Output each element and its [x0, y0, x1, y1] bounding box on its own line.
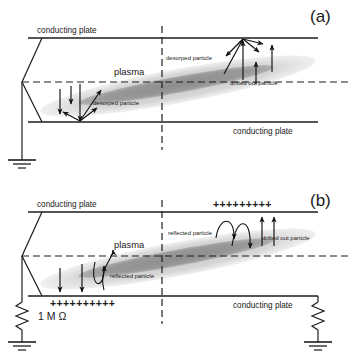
resistor-left-b	[16, 302, 28, 342]
annotation-reflected-bottom-b: reflected particle	[110, 273, 155, 279]
top-plate-label-b: conducting plate	[37, 200, 97, 209]
annotation-reflected-top-b: reflected particle	[168, 230, 213, 236]
ground-symbol-a	[8, 160, 36, 168]
plasma-label-b: plasma	[114, 239, 145, 250]
bottom-plate-label-b: conducting plate	[233, 301, 293, 310]
charge-row-top-b: +++++++++	[213, 198, 272, 210]
annotation-drifted-out-a: drifted out particle	[230, 80, 278, 86]
panel-a-label: (a)	[310, 7, 331, 26]
top-plate-label-a: conducting plate	[37, 26, 97, 35]
annotation-desorped-top-a: desorped particle	[166, 55, 213, 61]
charge-row-bottom-b: ++++++++++	[50, 297, 115, 309]
panel-a: (a)	[8, 7, 352, 168]
plasma-label-a: plasma	[114, 66, 145, 77]
panel-b-label: (b)	[310, 191, 331, 210]
left-wire-a	[22, 38, 42, 122]
annotation-desorped-bottom-a: desorped particle	[93, 100, 140, 106]
diagram-canvas: (a)	[0, 0, 362, 357]
figure-root: (a)	[0, 0, 362, 357]
resistor-label-b: 1 M Ω	[38, 310, 66, 322]
left-wire-b	[22, 212, 42, 296]
bottom-plate-label-a: conducting plate	[233, 127, 293, 136]
ground-symbol-left-b	[8, 342, 36, 350]
annotation-drifted-out-b: drifted out particle	[262, 235, 310, 241]
panel-b: (b)	[8, 191, 352, 350]
right-circuit-b	[304, 296, 332, 350]
